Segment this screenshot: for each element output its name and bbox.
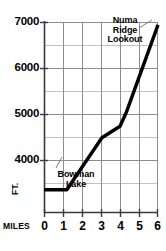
x-tick-label-4: 4 [114, 219, 128, 233]
y-tick-label-7000: 7000 [1, 15, 39, 27]
x-axis-title: MILES [3, 221, 30, 231]
x-tick-label-5: 5 [133, 219, 147, 233]
x-tick-label-6: 6 [151, 219, 165, 233]
y-tick-label-5000: 5000 [1, 107, 39, 119]
y-tick-label-6000: 6000 [1, 61, 39, 73]
x-tick-label-0: 0 [38, 219, 52, 233]
y-axis-title: FT. [10, 183, 20, 195]
annotation-bowman-lake: Bowman Lake [48, 170, 104, 189]
y-tick-label-4000: 4000 [1, 153, 39, 165]
annotation-numa-ridge-lookout: Numa Ridge Lookout [100, 16, 150, 45]
annotation-numa-line3: Lookout [100, 35, 150, 45]
x-tick-label-3: 3 [95, 219, 109, 233]
x-tick-label-2: 2 [76, 219, 90, 233]
elevation-profile-chart: 7000 6000 5000 4000 0 1 2 3 4 5 6 MILES … [0, 0, 166, 251]
annotation-bowman-line2: Lake [48, 180, 104, 190]
x-tick-label-1: 1 [57, 219, 71, 233]
